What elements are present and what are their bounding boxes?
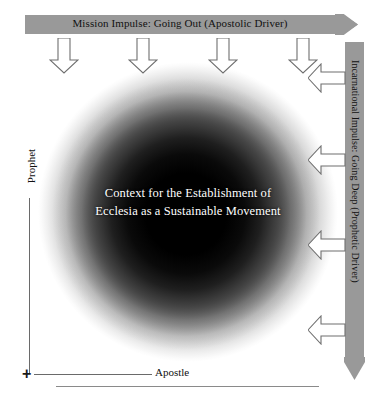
down-arrow-3 (208, 38, 238, 74)
center-caption-line-2: Ecclesia as a Sustainable Movement (60, 202, 316, 220)
left-arrow-4 (308, 315, 346, 345)
prophet-axis-line (29, 198, 30, 374)
mission-impulse-bar: Mission Impulse: Going Out (Apostolic Dr… (25, 14, 358, 35)
bottom-rule (56, 386, 319, 387)
left-arrow-2 (308, 145, 346, 175)
down-arrow-1 (49, 38, 79, 74)
apostle-axis-line (34, 374, 152, 375)
incarnational-impulse-label: Incarnational Impulse: Going Deep (Proph… (346, 60, 365, 340)
diagram-canvas: Context for the Establishment of Ecclesi… (0, 0, 374, 395)
prophet-axis-label: Prophet (25, 126, 37, 206)
left-arrow-3 (308, 230, 346, 260)
mission-impulse-label: Mission Impulse: Going Out (Apostolic Dr… (25, 17, 335, 29)
origin-marker: + (22, 366, 31, 382)
left-arrow-1 (308, 63, 346, 93)
center-caption-line-1: Context for the Establishment of (60, 184, 316, 202)
center-caption: Context for the Establishment of Ecclesi… (60, 184, 316, 220)
down-arrow-2 (128, 38, 158, 74)
apostle-axis-label: Apostle (155, 366, 189, 378)
